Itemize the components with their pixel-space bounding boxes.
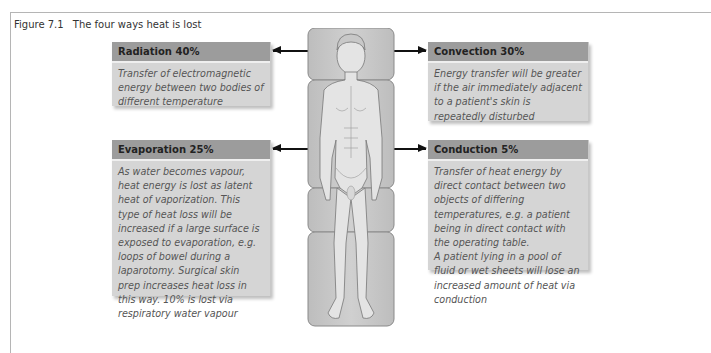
radiation-title: Radiation 40%	[112, 42, 270, 63]
convection-text: Energy transfer will be greater if the a…	[428, 63, 588, 130]
conduction-text-2: A patient lying in a pool of fluid or we…	[434, 250, 582, 307]
conduction-title: Conduction 5%	[428, 140, 588, 161]
radiation-text: Transfer of electromagnetic energy betwe…	[112, 63, 270, 116]
figure-caption: Figure 7.1 The four ways heat is lost	[14, 19, 201, 30]
patient-on-table-illustration	[306, 28, 398, 328]
figure-number: Figure 7.1	[14, 19, 64, 30]
conduction-text: Transfer of heat energy by direct contac…	[428, 161, 588, 313]
evaporation-text: As water becomes vapour, heat energy is …	[112, 161, 270, 327]
evaporation-title: Evaporation 25%	[112, 140, 270, 161]
figure-title: The four ways heat is lost	[73, 19, 202, 30]
conduction-box: Conduction 5% Transfer of heat energy by…	[428, 140, 589, 270]
convection-box: Convection 30% Energy transfer will be g…	[428, 42, 589, 121]
conduction-text-1: Transfer of heat energy by direct contac…	[434, 165, 582, 250]
convection-title: Convection 30%	[428, 42, 588, 63]
evaporation-box: Evaporation 25% As water becomes vapour,…	[112, 140, 271, 296]
radiation-box: Radiation 40% Transfer of electromagneti…	[112, 42, 271, 106]
